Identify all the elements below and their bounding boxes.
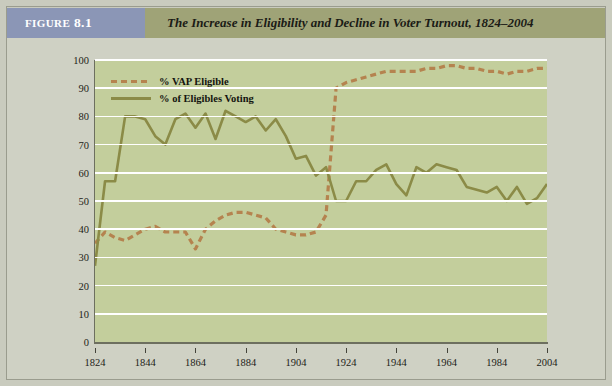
solid-line-icon — [111, 93, 151, 104]
x-tickmark-1904 — [296, 348, 297, 353]
gridline-40 — [95, 228, 547, 230]
y-tick-50: 50 — [79, 196, 90, 207]
x-tickmark-2004 — [547, 348, 548, 353]
legend-label-eligibles-voting: % of Eligibles Voting — [159, 93, 254, 104]
gridline-50 — [95, 200, 547, 202]
x-tick-1984: 1984 — [486, 357, 507, 368]
gridline-100 — [95, 59, 547, 61]
x-tickmark-1864 — [195, 348, 196, 353]
y-tick-10: 10 — [79, 308, 90, 319]
x-axis-line — [94, 342, 548, 344]
x-tickmark-1964 — [447, 348, 448, 353]
y-tick-70: 70 — [79, 139, 90, 150]
legend-item-vap-eligible: % VAP Eligible — [111, 74, 254, 89]
x-tickmark-1944 — [396, 348, 397, 353]
x-tick-1864: 1864 — [185, 357, 206, 368]
figure-number-text: FIGURE 8.1 — [25, 15, 92, 31]
x-tickmark-1984 — [497, 348, 498, 353]
y-tick-100: 100 — [73, 55, 89, 66]
y-tick-40: 40 — [79, 224, 90, 235]
legend-swatch-solid — [111, 93, 151, 104]
gridline-10 — [95, 313, 547, 315]
figure-title-bar: The Increase in Eligibility and Decline … — [145, 8, 605, 38]
y-tick-60: 60 — [79, 167, 90, 178]
figure-title: The Increase in Eligibility and Decline … — [167, 15, 533, 31]
x-tick-1844: 1844 — [135, 357, 156, 368]
x-tick-1824: 1824 — [85, 357, 106, 368]
gridline-70 — [95, 144, 547, 146]
x-tickmark-1824 — [95, 348, 96, 353]
x-tick-1944: 1944 — [386, 357, 407, 368]
x-axis-tick-labels: 1824184418641884190419241944196419842004 — [95, 348, 547, 372]
figure-number-badge: FIGURE 8.1 — [7, 8, 145, 38]
y-tick-0: 0 — [84, 337, 89, 348]
figure-number: 8.1 — [74, 15, 92, 30]
x-tickmark-1844 — [145, 348, 146, 353]
gridline-60 — [95, 172, 547, 174]
gridline-20 — [95, 285, 547, 287]
y-tick-30: 30 — [79, 252, 90, 263]
figure-header: FIGURE 8.1 The Increase in Eligibility a… — [7, 8, 605, 38]
x-tick-1924: 1924 — [336, 357, 357, 368]
gridline-30 — [95, 257, 547, 259]
x-tick-2004: 2004 — [537, 357, 558, 368]
series-line-eligibles-voting — [95, 111, 547, 266]
chart-legend: % VAP Eligible % of Eligibles Voting — [111, 74, 254, 108]
legend-item-eligibles-voting: % of Eligibles Voting — [111, 91, 254, 106]
x-tick-1884: 1884 — [235, 357, 256, 368]
y-axis-tick-labels: 0102030405060708090100 — [57, 60, 89, 342]
x-tickmark-1884 — [246, 348, 247, 353]
figure-card: FIGURE 8.1 The Increase in Eligibility a… — [0, 0, 612, 386]
x-tick-1904: 1904 — [285, 357, 306, 368]
y-tick-80: 80 — [79, 111, 90, 122]
figure-label-word: FIGURE — [25, 17, 70, 29]
y-tick-20: 20 — [79, 280, 90, 291]
y-tick-90: 90 — [79, 83, 90, 94]
dashed-line-icon — [111, 76, 151, 87]
chart-area: 0102030405060708090100 18241844186418841… — [7, 38, 605, 379]
gridline-80 — [95, 116, 547, 118]
x-tick-1964: 1964 — [436, 357, 457, 368]
legend-label-vap-eligible: % VAP Eligible — [159, 76, 229, 87]
x-tickmark-1924 — [346, 348, 347, 353]
legend-swatch-dashed — [111, 76, 151, 87]
